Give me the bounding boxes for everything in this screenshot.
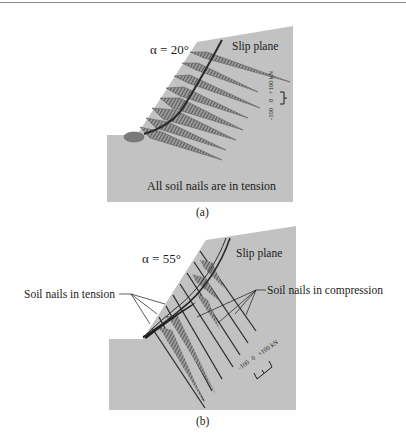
panel-b: α = 55° Slip plane Soil nails in tension… — [24, 226, 383, 428]
caption-b: (b) — [196, 415, 210, 428]
toe-deformation-zone-a — [124, 132, 144, 142]
tension-label: Soil nails in tension — [24, 288, 115, 300]
svg-text:0: 0 — [267, 99, 274, 102]
alpha-label-a: α = 20° — [150, 42, 189, 57]
svg-text:+100 kN: +100 kN — [267, 71, 274, 94]
caption-a: (a) — [196, 206, 209, 219]
slip-plane-label-a: Slip plane — [232, 40, 278, 53]
soil-nail-figure: α = 20° Slip plane -100 0 +100 kN All so… — [0, 0, 406, 441]
all-nails-tension-label: All soil nails are in tension — [147, 179, 276, 193]
panel-a: α = 20° Slip plane -100 0 +100 kN All so… — [107, 26, 293, 219]
svg-text:-100: -100 — [267, 108, 274, 120]
compression-label: Soil nails in compression — [267, 284, 383, 297]
alpha-label-b: α = 55° — [142, 251, 181, 266]
slip-plane-label-b: Slip plane — [236, 247, 282, 260]
